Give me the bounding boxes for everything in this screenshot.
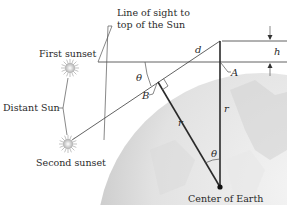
label-distant-sun: Distant Sun xyxy=(3,102,60,113)
leader-A xyxy=(221,63,231,72)
var-theta-center: θ xyxy=(211,148,217,159)
theta-arc-top xyxy=(145,62,151,86)
label-line-of-sight-2: top of the Sun xyxy=(117,19,185,30)
center-of-earth-dot xyxy=(217,184,222,189)
var-theta-top: θ xyxy=(136,72,142,83)
var-d: d xyxy=(195,44,201,55)
arrow-icon xyxy=(268,63,273,68)
sun-burst-icon xyxy=(59,135,77,153)
leader-line-of-sight-2 xyxy=(98,26,112,62)
label-center-of-earth: Center of Earth xyxy=(188,193,263,204)
label-line-of-sight-1: Line of sight to xyxy=(117,7,190,18)
right-angle-marker xyxy=(162,79,168,91)
label-first-sunset: First sunset xyxy=(39,48,96,59)
sunset-geometry-diagram: Line of sight to top of the Sun First su… xyxy=(0,0,287,217)
var-h: h xyxy=(274,46,280,57)
var-A: A xyxy=(230,67,238,78)
leader-distant-sun-bottom xyxy=(63,108,67,135)
sun-burst-icon xyxy=(61,59,79,77)
label-second-sunset: Second sunset xyxy=(36,157,106,168)
arrow-icon xyxy=(268,35,273,40)
var-B: B xyxy=(141,90,149,101)
